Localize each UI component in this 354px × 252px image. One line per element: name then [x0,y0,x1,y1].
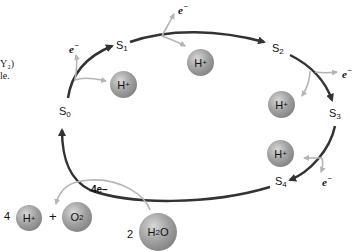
electron-label: e− [178,3,188,16]
cut-off-text: Y₂) le. [0,58,14,82]
four-electrons-label: 4e− [91,185,108,195]
water-coefficient: 2 [127,229,133,240]
arrow-s2-s3 [290,55,332,100]
oxygen-sphere: O2 [62,202,92,232]
plus-sign: + [49,210,57,223]
electron-label: e− [69,42,79,55]
cut-text-line: Y₂) [0,58,14,70]
proton-sphere: H+ [110,71,137,98]
state-s2: S2 [272,43,284,56]
state-s3: S3 [329,108,341,121]
arrow-s3-s4 [290,126,335,180]
state-s4: S4 [275,176,287,189]
electron-label: e− [342,67,352,80]
proton-coefficient: 4 [4,211,10,222]
arrow-s1-s2 [130,32,264,42]
state-s1: S1 [116,40,128,53]
proton-sphere: H+ [267,140,294,167]
proton-sphere: H+ [187,49,214,76]
proton-sphere: H+ [16,205,42,231]
electron-label: e− [322,175,332,188]
water-sphere: H2O [139,213,177,251]
state-s0: S0 [59,106,71,119]
proton-sphere: H+ [268,91,295,118]
cut-text-line: le. [0,70,14,82]
